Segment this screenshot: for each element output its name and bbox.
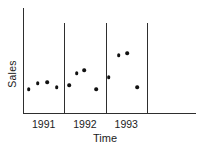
data-point [36, 81, 40, 85]
x-axis-line [23, 113, 196, 114]
year-divider-line [147, 23, 148, 114]
y-axis-label: Sales [6, 60, 18, 87]
sales-time-scatter-chart: Sales Time 199119921993 [0, 0, 208, 149]
data-point [95, 87, 99, 91]
x-tick-label: 1992 [73, 118, 96, 130]
data-point [27, 87, 31, 91]
data-point [136, 85, 140, 89]
data-point [82, 68, 86, 72]
year-divider-line [106, 23, 107, 114]
x-axis-label: Time [93, 132, 117, 144]
data-point [55, 85, 59, 89]
x-tick-label: 1991 [32, 118, 55, 130]
y-axis-line [23, 8, 24, 114]
data-point [75, 71, 79, 75]
data-point [117, 53, 121, 57]
data-point [67, 83, 71, 87]
year-divider-line [64, 23, 65, 114]
data-point [126, 51, 130, 55]
x-tick-label: 1993 [115, 118, 138, 130]
data-point [107, 75, 111, 79]
data-point [45, 80, 49, 84]
